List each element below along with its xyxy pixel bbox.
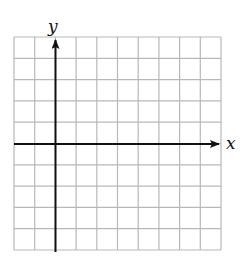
y-axis-label: y <box>47 16 58 36</box>
grid-svg: x y <box>0 0 248 262</box>
x-axis-label: x <box>226 133 236 153</box>
coordinate-grid-diagram: x y <box>0 0 248 262</box>
